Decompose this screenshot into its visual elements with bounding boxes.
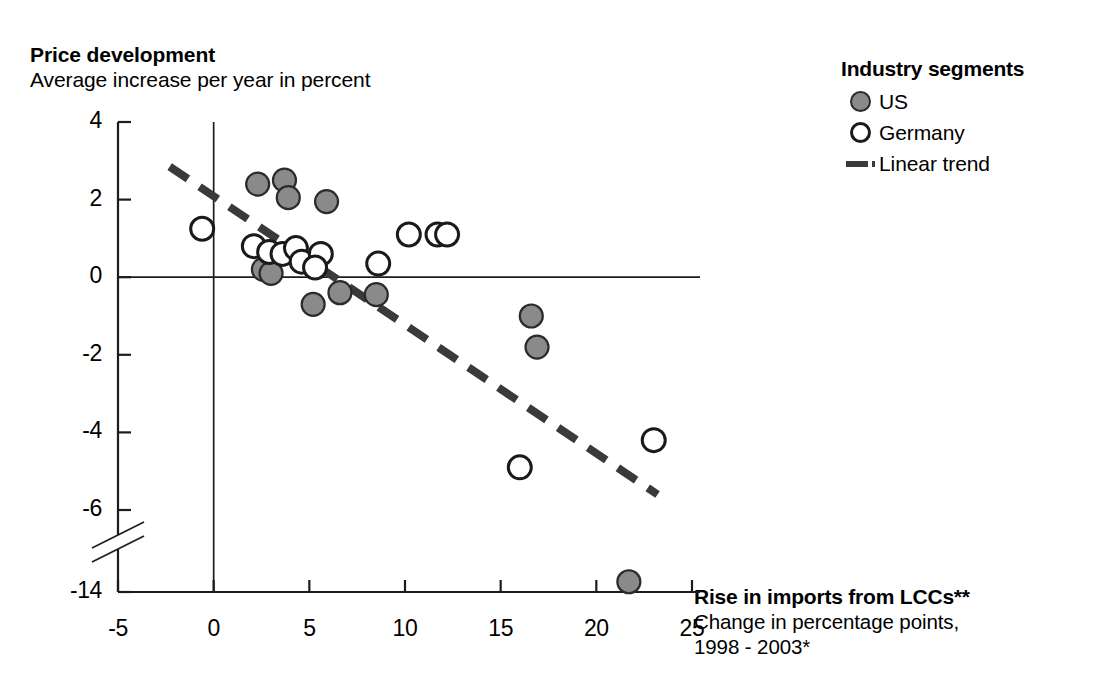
chart-container: Price development Average increase per y… xyxy=(0,0,1111,699)
x-axis-tick-label: 0 xyxy=(184,615,244,642)
data-point-us xyxy=(365,283,388,306)
data-point-us xyxy=(246,173,269,196)
x-axis-tick-label: 25 xyxy=(662,615,722,642)
data-point-germany xyxy=(367,252,390,275)
data-point-germany xyxy=(191,217,214,240)
x-axis-tick-label: 15 xyxy=(471,615,531,642)
y-axis-tick-label: -14 xyxy=(32,577,102,604)
plot-area xyxy=(0,0,1111,699)
data-point-germany xyxy=(508,456,531,479)
y-axis-tick-label: 0 xyxy=(32,262,102,289)
data-point-us xyxy=(277,186,300,209)
axes-group xyxy=(92,122,700,592)
y-axis-tick-label: 2 xyxy=(32,185,102,212)
data-point-germany xyxy=(304,256,327,279)
x-axis-tick-label: 10 xyxy=(375,615,435,642)
data-point-us xyxy=(328,281,351,304)
y-axis-tick-label: 4 xyxy=(32,107,102,134)
y-axis-tick-label: -6 xyxy=(32,495,102,522)
data-point-us xyxy=(315,190,338,213)
data-point-us xyxy=(302,293,325,316)
y-axis-tick-label: -2 xyxy=(32,340,102,367)
y-axis-tick-label: -4 xyxy=(32,417,102,444)
trend-line xyxy=(170,167,658,495)
x-axis-tick-label: 20 xyxy=(566,615,626,642)
x-axis-tick-label: 5 xyxy=(279,615,339,642)
data-point-germany xyxy=(397,223,420,246)
data-point-us xyxy=(617,570,640,593)
x-axis-tick-label: -5 xyxy=(88,615,148,642)
data-point-germany xyxy=(436,223,459,246)
data-point-us xyxy=(526,336,549,359)
data-point-us xyxy=(520,305,543,328)
data-point-germany xyxy=(642,429,665,452)
